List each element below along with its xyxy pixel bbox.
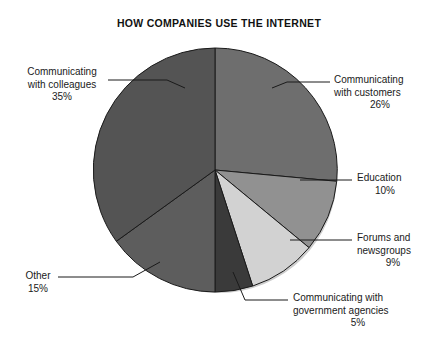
callout-education-pct: 10% [357,185,413,198]
pie-chart-graphic [0,0,438,341]
callout-colleagues-line2: with colleagues [28,79,96,90]
callout-colleagues-line1: Communicating [27,66,96,77]
callout-label-colleagues: Communicating with colleagues 35% [14,66,110,104]
callout-government-line2: government agencies [293,305,389,316]
callout-colleagues-pct: 35% [14,91,110,104]
pie-slice-communicating-with-customers[interactable] [215,48,337,181]
callout-label-customers: Communicating with customers 26% [334,74,434,112]
callout-label-education: Education 10% [357,172,433,197]
callout-label-forums: Forums and newsgroups 9% [357,232,437,270]
callout-label-other: Other 15% [17,270,59,295]
callout-forums-line2: newsgroups [357,245,411,256]
callout-forums-pct: 9% [357,257,429,270]
callout-other-line1: Other [25,270,50,281]
callout-label-government: Communicating with government agencies 5… [293,292,433,330]
callout-customers-pct: 26% [334,99,426,112]
callout-other-pct: 15% [17,283,59,296]
callout-customers-line2: with customers [334,87,401,98]
callout-education-line1: Education [357,172,401,183]
callout-customers-line1: Communicating [334,74,403,85]
callout-government-line1: Communicating with [293,292,383,303]
callout-forums-line1: Forums and [357,232,410,243]
pie-chart-figure: HOW COMPANIES USE THE INTERNET Communica… [0,0,438,341]
callout-government-pct: 5% [293,317,423,330]
